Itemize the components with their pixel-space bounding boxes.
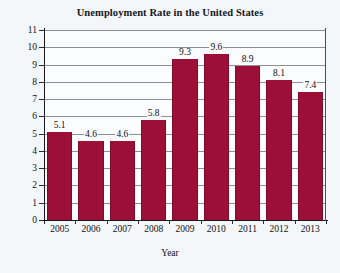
bar: [47, 132, 72, 220]
x-tick-label: 2013: [301, 224, 320, 234]
bar: [110, 141, 135, 220]
x-tick-label: 2005: [50, 224, 69, 234]
plot-area: 11109876543210: [44, 30, 326, 220]
chart-title: Unemployment Rate in the United States: [0, 7, 340, 18]
bar-value-label: 5.8: [147, 109, 161, 119]
x-axis-title: Year: [0, 248, 340, 258]
bar-value-label: 9.6: [209, 43, 223, 53]
bar: [78, 141, 103, 220]
bar-value-label: 4.6: [115, 130, 129, 140]
y-tick-label: 10: [28, 42, 38, 52]
x-tick-label: 2008: [144, 224, 163, 234]
y-tick-label: 2: [32, 180, 37, 190]
chart-figure: Unemployment Rate in the United States P…: [0, 0, 340, 273]
y-tick-label: 8: [32, 77, 37, 87]
right-axis-line: [325, 28, 326, 221]
y-tick-label: 1: [32, 198, 37, 208]
y-axis-line: [44, 28, 45, 222]
y-tick-label: 9: [32, 60, 37, 70]
x-tick-label: 2009: [176, 224, 195, 234]
bar-value-label: 4.6: [84, 130, 98, 140]
bar-value-label: 8.9: [241, 55, 255, 65]
x-tick-label: 2011: [238, 224, 257, 234]
x-tick-label: 2006: [82, 224, 101, 234]
x-axis-line: [43, 220, 328, 221]
bar: [235, 66, 260, 220]
bar-value-label: 8.1: [272, 69, 286, 79]
y-tick-label: 11: [28, 25, 37, 35]
y-tick-label: 6: [32, 111, 37, 121]
x-tick-label: 2007: [113, 224, 132, 234]
bar: [141, 120, 166, 220]
y-tick-label: 3: [32, 163, 37, 173]
y-tick-label: 0: [32, 215, 37, 225]
bar-value-label: 5.1: [53, 121, 67, 131]
bar: [266, 80, 291, 220]
bar-value-label: 9.3: [178, 48, 192, 58]
bar: [172, 59, 197, 220]
x-tick-label: 2012: [270, 224, 289, 234]
gridline: [44, 30, 326, 31]
x-tick-label: 2010: [207, 224, 226, 234]
y-tick-label: 4: [32, 146, 37, 156]
y-tick-label: 5: [32, 129, 37, 139]
bar: [298, 92, 323, 220]
bar-value-label: 7.4: [303, 81, 317, 91]
y-tick-label: 7: [32, 94, 37, 104]
bar: [204, 54, 229, 220]
